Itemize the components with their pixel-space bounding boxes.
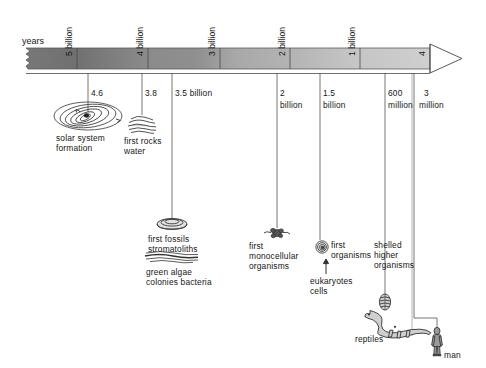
age-label-eukaryotes-1: 1.5 [323,88,335,98]
caption-reptiles: reptiles [355,334,383,344]
caption-monocellular-2: monocellular [249,251,299,261]
caption-first-rocks-1: first rocks [124,136,162,146]
caption-eukaryotes-3: eukaryotes [310,276,353,286]
bacterium-icon [264,228,290,237]
caption-shelled-2: higher [374,250,398,260]
time-bar [26,44,462,74]
timeline-figure: years 5 billion 4 billion 3 billion 2 bi… [0,0,486,368]
caption-monocellular-1: first [249,241,263,251]
caption-green-algae-2: colonies bacteria [146,277,212,287]
caption-solar-system-2: formation [56,143,92,153]
age-label-shelled-2: million [388,100,413,110]
axis-tick-4-billion: 4 billion [135,27,145,56]
age-label-first-fossils: 3.5 billion [175,88,212,98]
time-bar-body [26,48,430,69]
caption-solar-system-1: solar system [56,133,105,143]
age-label-monocellular-1: 2 [280,88,285,98]
stromatolith-icon [157,219,187,230]
axis-tick-present: 4 [417,51,427,56]
caption-eukaryotes-4: cells [310,286,328,296]
axis-label-years: years [22,36,44,46]
caption-man: man [444,350,461,360]
caption-eukaryotes-2: organisms [331,250,371,260]
caption-green-algae-1: green algae [146,267,192,277]
axis-tick-2-billion: 2 billion [277,27,287,56]
axis-tick-5-billion: 5 billion [64,27,74,56]
shell-icon [379,294,390,310]
caption-shelled-1: shelled [374,240,402,250]
axis-tick-3-billion: 3 billion [207,27,217,56]
caption-monocellular-3: organisms [249,261,289,271]
caption-first-rocks-2: water [124,146,145,156]
caption-shelled-3: organisms [374,260,414,270]
caption-eukaryotes-1: first [331,240,345,250]
caption-first-fossils-1: first fossils [148,234,189,244]
up-arrow-icon [323,259,328,274]
age-label-man-2: million [419,100,444,110]
caption-first-fossils-2: stromatoliths [148,244,198,254]
time-bar-arrowhead [430,44,462,73]
age-label-first-rocks: 3.8 [145,88,157,98]
leader-man [414,73,437,328]
axis-tick-1-billion: 1 billion [347,27,357,56]
human-figure-icon [432,327,443,355]
rock-strata-icon [128,116,156,133]
eukaryote-cell-icon [316,241,328,253]
age-label-solar-system: 4.6 [91,88,103,98]
age-label-man-1: 3 [424,88,429,98]
age-label-monocellular-2: billion [280,100,303,110]
age-label-eukaryotes-2: billion [323,100,346,110]
age-label-shelled-1: 600 [388,88,402,98]
